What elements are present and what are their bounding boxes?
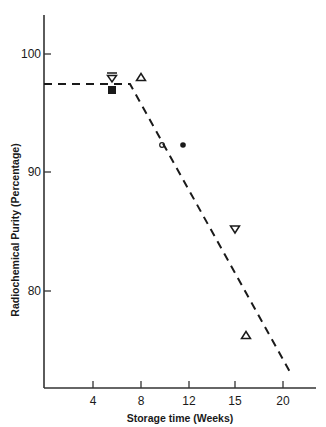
x-tick-labels: 4 8 12 15 20 xyxy=(90,394,290,408)
inverted-triangle-marker-2 xyxy=(231,226,240,233)
x-tick-12: 12 xyxy=(182,394,196,408)
x-ticks xyxy=(93,381,283,388)
trend-line-dashed xyxy=(44,84,290,372)
y-tick-100: 100 xyxy=(21,47,41,61)
x-tick-20: 20 xyxy=(276,394,290,408)
open-triangle-marker xyxy=(137,74,146,81)
y-tick-80: 80 xyxy=(28,284,42,298)
x-tick-15: 15 xyxy=(228,394,242,408)
data-markers xyxy=(107,73,251,339)
x-tick-4: 4 xyxy=(90,394,97,408)
y-ticks xyxy=(44,54,51,291)
inverted-triangle-marker xyxy=(107,73,117,82)
filled-circle-marker xyxy=(180,142,186,148)
filled-square-marker xyxy=(108,86,116,94)
open-triangle-marker-2 xyxy=(242,332,251,339)
chart: 100 90 80 4 8 12 15 20 Storage time (Wee… xyxy=(0,0,326,427)
y-tick-labels: 100 90 80 xyxy=(21,47,41,298)
x-axis-title: Storage time (Weeks) xyxy=(127,412,234,424)
x-tick-8: 8 xyxy=(138,394,145,408)
axes xyxy=(44,15,316,388)
y-tick-90: 90 xyxy=(28,165,42,179)
y-axis-title: Radiochemical Purity (Percentage) xyxy=(9,143,21,316)
